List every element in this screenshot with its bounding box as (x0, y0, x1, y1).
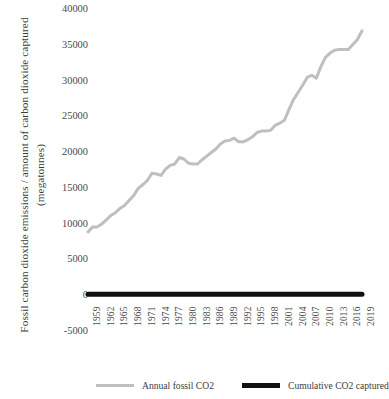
x-axis-tick-label: 1989 (229, 306, 239, 326)
x-axis-tick-label: 2007 (311, 306, 321, 326)
legend-item-annual-fossil-co2: Annual fossil CO2 (96, 380, 242, 391)
chart-legend: Annual fossil CO2 Cumulative CO2 capture… (96, 377, 364, 393)
legend-item-cumulative-co2-captured: Cumulative CO2 captured (242, 380, 364, 391)
plot-area (88, 8, 362, 330)
x-axis-tick-label: 1980 (188, 306, 198, 326)
y-axis-tick-label: 10000 (34, 217, 88, 228)
x-axis-tick-label: 1977 (174, 306, 184, 326)
y-axis-tick-label: 5000 (34, 253, 88, 264)
x-axis-tick-label: 1959 (92, 306, 102, 326)
x-axis-tick-label: 1965 (119, 306, 129, 326)
x-axis-tick-label: 2019 (366, 306, 376, 326)
x-axis-tick-label: 1992 (243, 306, 253, 326)
legend-label: Annual fossil CO2 (142, 380, 214, 391)
legend-line-swatch-icon (96, 384, 134, 387)
y-axis-tick-label: 30000 (34, 74, 88, 85)
y-axis-tick-label: 20000 (34, 146, 88, 157)
y-axis-tick-label: 35000 (34, 38, 88, 49)
series-group (88, 31, 362, 294)
x-axis-tick-label: 1998 (270, 306, 280, 326)
plot-svg (88, 8, 362, 330)
x-axis-tick-label: 1974 (161, 306, 171, 326)
x-axis-tick-label: 2004 (298, 306, 308, 326)
x-axis-tick-label: 1971 (147, 306, 157, 326)
y-axis-tick-label: 25000 (34, 110, 88, 121)
x-axis-tick-label: 1962 (106, 306, 116, 326)
x-axis-tick-labels: 1959196219651968197119741977198019831986… (88, 300, 362, 362)
x-axis-tick-label: 2016 (352, 306, 362, 326)
y-axis-tick-label: 0 (34, 289, 88, 300)
y-axis-tick-label: 15000 (34, 181, 88, 192)
series-line-annual-fossil-co2 (88, 31, 362, 232)
x-axis-tick-label: 1968 (133, 306, 143, 326)
x-axis-tick-label: 1983 (202, 306, 212, 326)
y-axis-tick-label: -5000 (34, 325, 88, 336)
legend-line-swatch-icon (242, 383, 280, 388)
y-axis-tick-label: 40000 (34, 3, 88, 14)
x-axis-tick-label: 1986 (215, 306, 225, 326)
x-axis-tick-label: 2013 (339, 306, 349, 326)
x-axis-tick-label: 1995 (256, 306, 266, 326)
y-axis-title-line1: Fossil carbon dioxide emissions / amount… (18, 17, 30, 332)
legend-label: Cumulative CO2 captured (288, 380, 389, 391)
x-axis-tick-label: 2010 (325, 306, 335, 326)
y-axis-tick-labels: 4000035000300002500020000150001000050000… (34, 0, 88, 399)
x-axis-tick-label: 2001 (284, 306, 294, 326)
